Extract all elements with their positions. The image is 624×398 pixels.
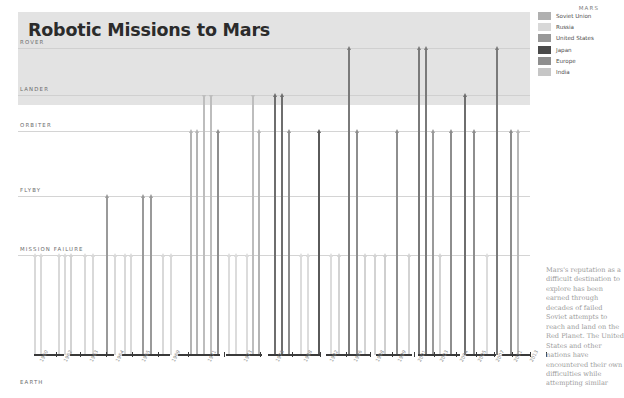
mission-arrow xyxy=(142,196,144,355)
arrow-shaft xyxy=(217,131,219,355)
axis-tick xyxy=(292,352,293,357)
arrowhead-icon xyxy=(202,95,206,99)
earth-label: EARTH xyxy=(20,379,44,385)
arrowhead-icon xyxy=(91,253,95,257)
arrowhead-icon xyxy=(234,253,238,257)
arrow-shaft xyxy=(348,48,350,355)
arrow-shaft xyxy=(396,131,398,355)
arrowhead-icon xyxy=(395,129,399,133)
arrow-shaft xyxy=(84,255,86,355)
arrowhead-icon xyxy=(431,129,435,133)
legend-label: United States xyxy=(556,35,594,41)
arrow-shaft xyxy=(418,48,420,355)
legend-item-europe[interactable]: Europe xyxy=(538,57,607,65)
mission-arrow xyxy=(418,48,420,355)
arrow-shaft xyxy=(258,131,260,355)
arrowhead-icon xyxy=(347,46,351,50)
arrowhead-icon xyxy=(438,253,442,257)
arrowhead-icon xyxy=(495,46,499,50)
legend-item-russia[interactable]: Russia xyxy=(538,23,607,31)
arrowhead-icon xyxy=(373,253,377,257)
arrow-shaft xyxy=(252,95,254,355)
arrow-shaft xyxy=(338,255,340,355)
mission-arrow xyxy=(235,255,237,355)
arrowhead-icon xyxy=(299,253,303,257)
axis-tick xyxy=(224,352,225,357)
legend-item-india[interactable]: India xyxy=(538,68,607,76)
legend-label: India xyxy=(556,69,570,75)
arrowhead-icon xyxy=(39,253,43,257)
arrow-shaft xyxy=(408,255,410,355)
arrow-shaft xyxy=(170,255,172,355)
axis-tick xyxy=(80,352,81,357)
legend-item-united-states[interactable]: United States xyxy=(538,34,607,42)
arrowhead-icon xyxy=(424,46,428,50)
mission-arrow xyxy=(408,255,410,355)
axis-tick xyxy=(188,352,189,357)
arrow-shaft xyxy=(464,95,466,355)
arrow-shaft xyxy=(517,131,519,355)
axis-tick xyxy=(106,352,107,357)
arrowhead-icon xyxy=(63,253,67,257)
legend-item-japan[interactable]: Japan xyxy=(538,46,607,54)
arrow-shaft xyxy=(425,48,427,355)
mission-arrow xyxy=(300,255,302,355)
arrowhead-icon xyxy=(161,253,165,257)
arrowhead-icon xyxy=(273,93,277,97)
axis-tick xyxy=(346,352,347,357)
arrow-shaft xyxy=(150,196,152,355)
legend-swatch xyxy=(538,23,551,31)
legend-swatch xyxy=(538,34,551,42)
mission-arrow xyxy=(330,255,332,355)
mission-arrow xyxy=(384,255,386,355)
mission-arrow xyxy=(246,255,248,355)
axis-tick xyxy=(158,352,159,357)
arrowhead-icon xyxy=(123,253,127,257)
mission-arrow xyxy=(307,255,309,355)
mission-arrow xyxy=(203,95,205,355)
arrow-shaft xyxy=(64,255,66,355)
arrow-shaft xyxy=(162,255,164,355)
axis-tick xyxy=(414,352,415,357)
mission-arrow xyxy=(162,255,164,355)
arrow-shaft xyxy=(432,131,434,355)
arrowhead-icon xyxy=(449,129,453,133)
arrow-shaft xyxy=(318,131,320,355)
arrowhead-icon xyxy=(169,253,173,257)
arrowhead-icon xyxy=(317,129,321,133)
legend-label: Japan xyxy=(556,47,572,53)
legend-label: Soviet Union xyxy=(556,13,591,19)
mission-arrow xyxy=(364,255,366,355)
arrow-shaft xyxy=(235,255,237,355)
legend: Soviet UnionRussiaUnited StatesJapanEuro… xyxy=(538,12,607,79)
mission-arrow xyxy=(473,131,475,355)
arrow-shaft xyxy=(203,95,205,355)
arrow-shaft xyxy=(374,255,376,355)
mission-arrow xyxy=(432,131,434,355)
legend-item-soviet-union[interactable]: Soviet Union xyxy=(538,12,607,20)
mission-arrow xyxy=(40,255,42,355)
legend-swatch xyxy=(538,46,551,54)
mission-arrow xyxy=(210,95,212,355)
arrow-shaft xyxy=(34,255,36,355)
arrowhead-icon xyxy=(509,129,513,133)
arrowhead-icon xyxy=(113,253,117,257)
axis-tick xyxy=(132,352,133,357)
arrowhead-icon xyxy=(195,129,199,133)
mission-arrow xyxy=(258,131,260,355)
arrowhead-icon xyxy=(287,129,291,133)
arrowhead-icon xyxy=(355,129,359,133)
arrowhead-icon xyxy=(141,194,145,198)
mission-arrow xyxy=(70,255,72,355)
mission-arrow xyxy=(439,255,441,355)
mission-arrow xyxy=(170,255,172,355)
mission-arrow xyxy=(228,255,230,355)
arrow-shaft xyxy=(439,255,441,355)
mission-arrow xyxy=(274,95,276,355)
arrow-shaft xyxy=(274,95,276,355)
mission-arrow xyxy=(425,48,427,355)
mission-arrow xyxy=(396,131,398,355)
mars-label: MARS xyxy=(579,5,599,11)
arrowhead-icon xyxy=(280,93,284,97)
arrow-shaft xyxy=(281,95,283,355)
